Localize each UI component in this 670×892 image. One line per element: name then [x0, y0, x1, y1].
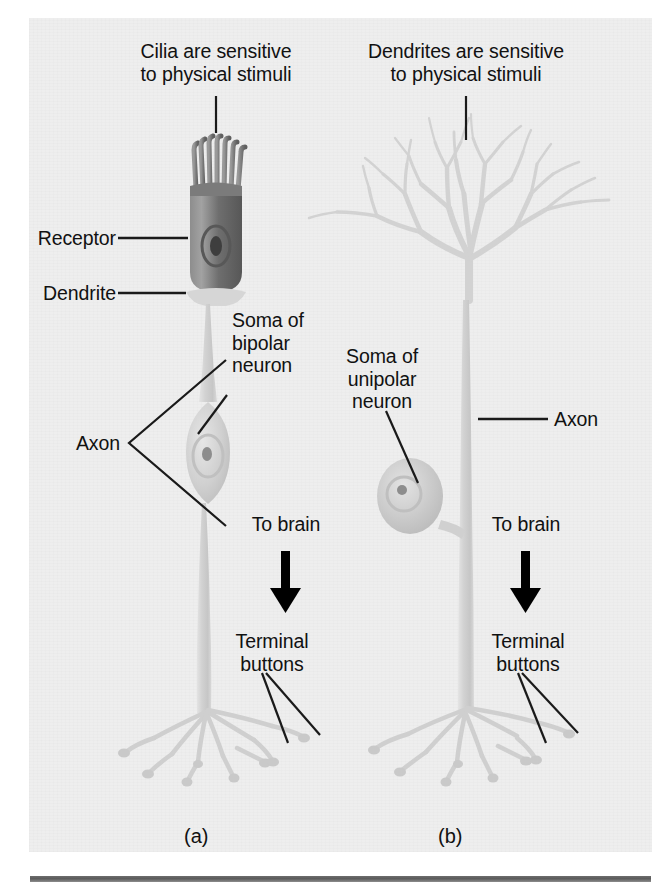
receptor-nucleus [210, 236, 222, 256]
label-to-brain-a: To brain [226, 513, 346, 536]
label-to-brain-b: To brain [466, 513, 586, 536]
cilia [194, 136, 245, 190]
label-axon-a: Axon [0, 432, 120, 455]
caption-a: (a) [184, 825, 208, 848]
dendrite-process [199, 304, 217, 402]
dendrite-flare [186, 288, 246, 306]
bipolar-axon [197, 503, 212, 713]
unipolar-neuron [309, 96, 609, 787]
label-soma-unipolar: Soma of unipolar neuron [322, 345, 442, 413]
label-dendrites-note: Dendrites are sensitive to physical stim… [346, 40, 586, 85]
bipolar-neuron [118, 96, 320, 787]
terminal-arbor-a [126, 710, 302, 780]
caption-b: (b) [438, 825, 462, 848]
dendritic-tree [309, 114, 609, 300]
to-brain-arrow-b [510, 551, 541, 613]
label-receptor: Receptor [0, 227, 116, 250]
label-cilia-note: Cilia are sensitive to physical stimuli [106, 40, 326, 85]
bottom-rule [30, 876, 651, 882]
to-brain-arrow-a [270, 551, 301, 613]
label-dendrite: Dendrite [0, 282, 116, 305]
unipolar-soma-nucleus [397, 485, 407, 495]
label-axon-b: Axon [554, 408, 644, 431]
label-terminal-buttons-a: Terminal buttons [212, 630, 332, 675]
bipolar-soma-nucleus [202, 447, 212, 461]
figure-root: Cilia are sensitive to physical stimuli … [0, 0, 670, 892]
label-terminal-buttons-b: Terminal buttons [468, 630, 588, 675]
